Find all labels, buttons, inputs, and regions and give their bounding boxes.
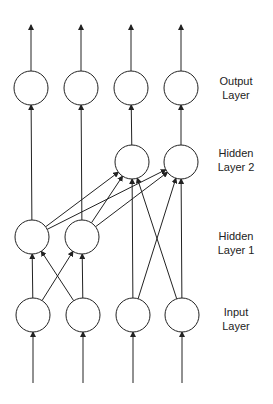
connection-edges [31, 105, 182, 301]
edge-input-0-to-hidden1-0 [32, 254, 33, 298]
hidden1-node-0 [15, 220, 49, 254]
hidden-layer-2-label-line2: Layer 2 [201, 160, 271, 174]
output-layer-label: Output Layer [201, 74, 271, 102]
hidden-layer-2-label-line1: Hidden [201, 146, 271, 160]
hidden2-node-1 [164, 145, 198, 179]
edge-hidden2-0-to-output-2 [131, 105, 132, 145]
output-node-1 [64, 71, 98, 105]
output-layer-label-line1: Output [201, 74, 271, 88]
edge-input-3-to-hidden2-0 [137, 178, 176, 299]
network-nodes [14, 71, 199, 332]
input-node-1 [66, 298, 100, 332]
hidden-layer-1-label: Hidden Layer 1 [201, 229, 271, 257]
hidden1-node-1 [65, 220, 99, 254]
input-layer-label-line1: Input [201, 305, 271, 319]
input-node-0 [16, 298, 50, 332]
io-arrows [31, 25, 182, 383]
edge-input-3-to-hidden2-1 [181, 179, 182, 298]
edge-input-1-to-hidden1-1 [82, 254, 83, 298]
input-node-2 [116, 298, 150, 332]
edge-hidden1-1-to-output-1 [81, 105, 82, 220]
output-node-2 [114, 71, 148, 105]
edge-hidden1-1-to-hidden2-0 [91, 176, 122, 223]
output-layer-label-line2: Layer [201, 88, 271, 102]
neural-network-diagram [0, 0, 273, 404]
output-node-3 [164, 71, 198, 105]
hidden-layer-2-label: Hidden Layer 2 [201, 146, 271, 174]
input-layer-label: Input Layer [201, 305, 271, 333]
input-node-3 [165, 298, 199, 332]
hidden-layer-1-label-line2: Layer 1 [201, 243, 271, 257]
hidden-layer-1-label-line1: Hidden [201, 229, 271, 243]
hidden2-node-0 [115, 145, 149, 179]
edge-hidden1-0-to-output-0 [31, 105, 32, 220]
output-node-0 [14, 71, 48, 105]
edge-input-2-to-hidden2-0 [132, 179, 133, 298]
input-layer-label-line2: Layer [201, 319, 271, 333]
